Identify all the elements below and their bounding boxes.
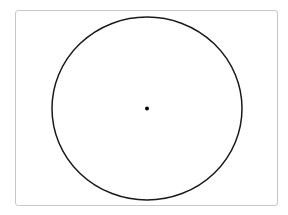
diagram-canvas <box>0 0 288 215</box>
center-point <box>145 107 149 111</box>
